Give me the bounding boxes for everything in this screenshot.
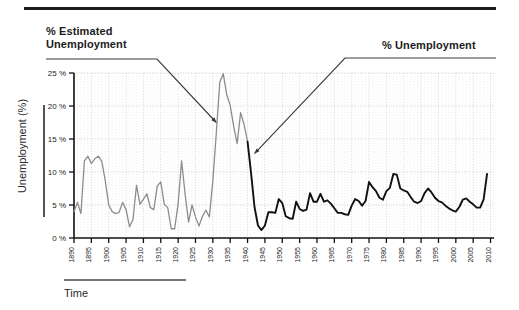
svg-text:1965: 1965 [328, 247, 335, 263]
svg-text:1925: 1925 [189, 247, 196, 263]
x-axis-tick-labels: 1890189519001905191019151920192519301935… [68, 247, 492, 263]
svg-text:1930: 1930 [207, 247, 214, 263]
line-chart-plot: 1890189519001905191019151920192519301935… [0, 0, 519, 310]
svg-text:25 %: 25 % [48, 69, 66, 78]
svg-text:5 %: 5 % [52, 201, 66, 210]
svg-text:1950: 1950 [276, 247, 283, 263]
svg-text:1960: 1960 [311, 247, 318, 263]
y-axis-tick-labels: 0 %5 %10 %15 %20 %25 % [48, 69, 66, 243]
svg-text:2010: 2010 [485, 247, 492, 263]
svg-text:10 %: 10 % [48, 168, 66, 177]
svg-text:1920: 1920 [172, 247, 179, 263]
svg-text:1895: 1895 [85, 247, 92, 263]
svg-text:1910: 1910 [137, 247, 144, 263]
svg-text:1985: 1985 [398, 247, 405, 263]
figure-container: % Estimated Unemployment % Unemployment … [0, 0, 519, 310]
svg-text:1915: 1915 [155, 247, 162, 263]
svg-text:1905: 1905 [120, 247, 127, 263]
svg-text:1970: 1970 [346, 247, 353, 263]
svg-text:1945: 1945 [259, 247, 266, 263]
svg-text:2000: 2000 [450, 247, 457, 263]
svg-text:2005: 2005 [467, 247, 474, 263]
data-series-group [74, 74, 487, 230]
svg-text:1900: 1900 [103, 247, 110, 263]
svg-text:1940: 1940 [242, 247, 249, 263]
svg-text:1995: 1995 [432, 247, 439, 263]
svg-text:1980: 1980 [380, 247, 387, 263]
svg-text:1975: 1975 [363, 247, 370, 263]
svg-text:1955: 1955 [294, 247, 301, 263]
svg-text:1890: 1890 [68, 247, 75, 263]
svg-text:20 %: 20 % [48, 102, 66, 111]
svg-text:1935: 1935 [224, 247, 231, 263]
svg-text:1990: 1990 [415, 247, 422, 263]
svg-text:0 %: 0 % [52, 234, 66, 243]
svg-text:15 %: 15 % [48, 135, 66, 144]
